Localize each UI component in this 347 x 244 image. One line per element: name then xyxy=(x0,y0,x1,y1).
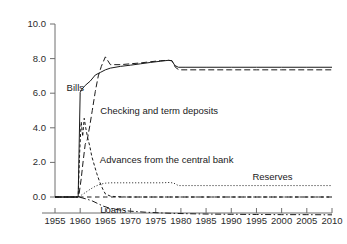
y-axis-tick-label: 6.0 xyxy=(4,88,46,98)
x-axis-tick-label: 2010 xyxy=(317,216,347,226)
y-axis-tick-label: 4.0 xyxy=(4,123,46,133)
y-axis-ticks xyxy=(50,24,55,197)
y-axis-tick-label: 2.0 xyxy=(4,157,46,167)
series-annotation-label: Loans xyxy=(100,204,126,215)
series-line xyxy=(55,182,332,197)
chart-series-group xyxy=(55,57,332,215)
y-axis-tick-label: 10.0 xyxy=(4,19,46,29)
series-annotation-label: Bills xyxy=(67,82,84,93)
series-annotation-label: Advances from the central bank xyxy=(100,154,234,165)
series-annotation-label: Checking and term deposits xyxy=(100,105,218,116)
x-axis-ticks xyxy=(55,208,332,213)
chart-axes xyxy=(42,24,332,213)
y-axis-tick-label: 0.0 xyxy=(4,192,46,202)
series-line xyxy=(55,197,332,215)
series-annotation-label: Reserves xyxy=(252,171,292,182)
y-axis-tick-label: 8.0 xyxy=(4,54,46,64)
